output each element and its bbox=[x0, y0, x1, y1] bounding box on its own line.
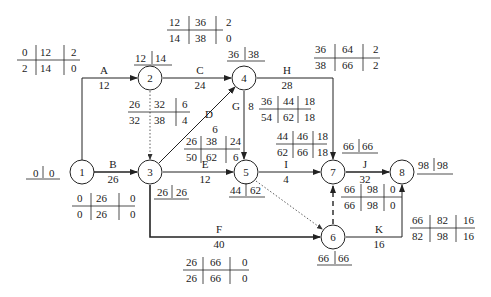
node-2-times: 1214 bbox=[134, 51, 172, 65]
svg-text:4: 4 bbox=[182, 114, 188, 126]
svg-text:26: 26 bbox=[176, 186, 188, 198]
activity-g-params: 364418 546218 bbox=[259, 95, 316, 123]
svg-text:62: 62 bbox=[250, 184, 261, 196]
activity-a-name: A bbox=[100, 64, 108, 76]
svg-text:18: 18 bbox=[304, 95, 316, 107]
activity-j-params: 66980 66980 bbox=[341, 183, 402, 211]
activity-d-arrow bbox=[159, 87, 235, 163]
svg-text:2: 2 bbox=[22, 62, 28, 74]
svg-text:7: 7 bbox=[330, 166, 336, 178]
svg-text:0: 0 bbox=[226, 32, 232, 44]
svg-text:12: 12 bbox=[135, 52, 146, 64]
svg-text:66: 66 bbox=[344, 199, 356, 211]
svg-text:82: 82 bbox=[437, 214, 448, 226]
activity-f-name: F bbox=[216, 223, 222, 235]
svg-text:2: 2 bbox=[147, 72, 153, 84]
svg-text:0: 0 bbox=[130, 192, 136, 204]
node-7: 7 bbox=[321, 160, 345, 184]
node-3: 3 bbox=[138, 160, 162, 184]
svg-text:38: 38 bbox=[206, 135, 218, 147]
svg-text:26: 26 bbox=[129, 98, 141, 110]
svg-text:14: 14 bbox=[169, 32, 181, 44]
activity-f-params: 26660 26660 bbox=[183, 256, 249, 284]
svg-text:2: 2 bbox=[373, 43, 379, 55]
svg-text:24: 24 bbox=[230, 135, 242, 147]
svg-text:98: 98 bbox=[367, 199, 379, 211]
svg-text:1: 1 bbox=[79, 166, 85, 178]
svg-text:38: 38 bbox=[154, 114, 166, 126]
svg-text:6: 6 bbox=[182, 98, 188, 110]
svg-text:26: 26 bbox=[186, 135, 198, 147]
svg-text:0: 0 bbox=[242, 272, 248, 284]
activity-f-duration: 40 bbox=[214, 238, 226, 250]
svg-text:50: 50 bbox=[186, 151, 198, 163]
svg-text:26: 26 bbox=[96, 192, 108, 204]
svg-text:18: 18 bbox=[304, 111, 316, 123]
node-4-times: 3638 bbox=[227, 47, 265, 61]
svg-text:6: 6 bbox=[233, 151, 239, 163]
svg-text:44: 44 bbox=[283, 95, 295, 107]
svg-text:5: 5 bbox=[243, 166, 249, 178]
svg-text:98: 98 bbox=[418, 159, 430, 171]
activity-j-name: J bbox=[363, 158, 368, 170]
svg-text:54: 54 bbox=[261, 111, 273, 123]
svg-text:98: 98 bbox=[437, 230, 449, 242]
svg-text:26: 26 bbox=[186, 256, 198, 268]
svg-text:2: 2 bbox=[226, 16, 232, 28]
svg-text:8: 8 bbox=[399, 166, 405, 178]
activity-k-duration: 16 bbox=[374, 238, 386, 250]
svg-text:14: 14 bbox=[40, 62, 52, 74]
node-8-times: 9898 bbox=[417, 158, 453, 174]
activity-e-duration: 12 bbox=[200, 173, 211, 185]
activity-c-name: C bbox=[196, 64, 203, 76]
svg-text:16: 16 bbox=[463, 214, 475, 226]
svg-text:14: 14 bbox=[155, 52, 167, 64]
svg-text:18: 18 bbox=[317, 146, 329, 158]
svg-text:16: 16 bbox=[463, 230, 475, 242]
svg-text:98: 98 bbox=[437, 159, 449, 171]
svg-text:62: 62 bbox=[206, 151, 217, 163]
activity-e-params: 263824 50626 bbox=[184, 135, 242, 163]
node-5: 5 bbox=[234, 160, 258, 184]
activity-c-duration: 24 bbox=[195, 79, 207, 91]
node-3-times: 2626 bbox=[154, 185, 189, 199]
svg-text:2: 2 bbox=[71, 46, 77, 58]
svg-text:36: 36 bbox=[228, 48, 240, 60]
activity-b-params: 0260 0260 bbox=[72, 192, 136, 220]
svg-text:36: 36 bbox=[261, 95, 273, 107]
svg-text:66: 66 bbox=[338, 252, 350, 264]
activity-h-params: 36642 38662 bbox=[314, 43, 380, 71]
svg-text:36: 36 bbox=[315, 43, 327, 55]
svg-text:4: 4 bbox=[241, 72, 247, 84]
svg-text:98: 98 bbox=[367, 183, 379, 195]
svg-text:32: 32 bbox=[129, 114, 140, 126]
dummy-5-6-arrow bbox=[256, 181, 322, 229]
svg-text:18: 18 bbox=[317, 130, 329, 142]
node-2: 2 bbox=[138, 66, 162, 90]
svg-text:0: 0 bbox=[71, 62, 77, 74]
activity-i-duration: 4 bbox=[283, 173, 289, 185]
svg-text:26: 26 bbox=[186, 272, 198, 284]
node-1-times: 00 bbox=[26, 166, 60, 179]
svg-text:66: 66 bbox=[318, 252, 330, 264]
activity-d-duration: 6 bbox=[212, 123, 218, 135]
svg-text:66: 66 bbox=[344, 183, 356, 195]
activity-k-name: K bbox=[375, 223, 383, 235]
svg-text:38: 38 bbox=[195, 32, 207, 44]
activity-a-duration: 12 bbox=[99, 79, 110, 91]
svg-text:66: 66 bbox=[297, 146, 309, 158]
svg-text:62: 62 bbox=[283, 111, 294, 123]
svg-text:64: 64 bbox=[342, 43, 354, 55]
activity-g-duration: 8 bbox=[248, 100, 254, 112]
activity-k-params: 668216 829816 bbox=[410, 214, 475, 242]
svg-text:26: 26 bbox=[157, 186, 169, 198]
network-diagram: A 12 B 26 C 24 D 6 E 12 F 40 G 8 H 28 I … bbox=[0, 0, 491, 297]
svg-text:44: 44 bbox=[277, 130, 289, 142]
svg-text:0: 0 bbox=[242, 256, 248, 268]
node-8: 8 bbox=[390, 160, 414, 184]
activity-h-name: H bbox=[283, 64, 291, 76]
svg-text:66: 66 bbox=[343, 140, 355, 152]
svg-text:62: 62 bbox=[277, 146, 288, 158]
activity-a-params: 0122 2140 bbox=[17, 45, 80, 75]
svg-text:0: 0 bbox=[390, 183, 396, 195]
